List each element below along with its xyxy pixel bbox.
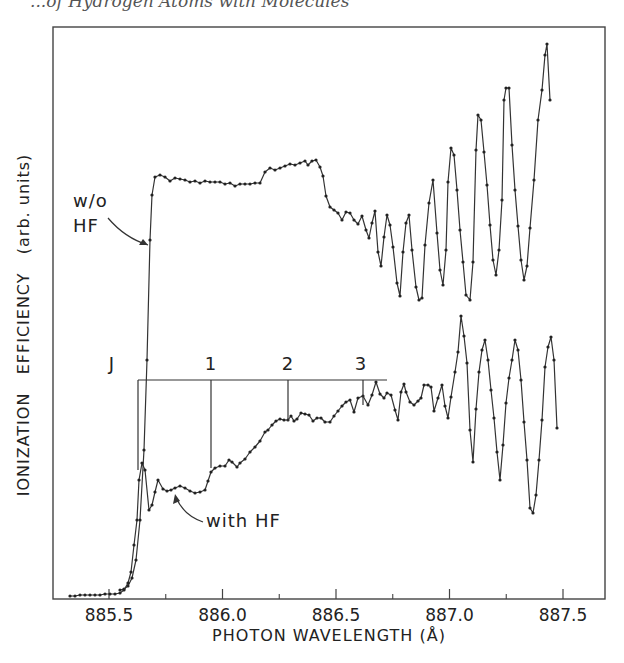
data-point: [407, 213, 410, 216]
annotation-wo-hf-line2: HF: [73, 215, 99, 236]
plot-frame: [53, 27, 605, 599]
data-point: [118, 588, 121, 591]
data-point: [399, 390, 402, 393]
data-point: [311, 419, 314, 422]
data-point: [356, 222, 359, 225]
data-point: [314, 158, 317, 161]
data-point: [483, 338, 486, 341]
data-point: [299, 411, 302, 414]
data-point: [525, 264, 528, 267]
data-point: [531, 511, 534, 514]
data-point: [295, 417, 298, 420]
data-point: [248, 182, 251, 185]
data-point: [453, 370, 456, 373]
data-point: [452, 153, 455, 156]
data-point: [366, 403, 369, 406]
data-point: [408, 400, 411, 403]
x-tick-label: 886.0: [198, 605, 247, 625]
data-point: [485, 183, 488, 186]
data-point: [388, 223, 391, 226]
data-point: [183, 486, 186, 489]
data-point: [540, 88, 543, 91]
data-point: [426, 383, 429, 386]
data-point: [464, 293, 467, 296]
data-point: [395, 281, 398, 284]
data-point: [258, 439, 261, 442]
progression-label-2: 2: [282, 353, 294, 374]
x-axis-tick-labels: 885.5886.0886.5887.0887.5: [85, 605, 588, 625]
data-point: [178, 484, 181, 487]
data-point: [441, 283, 444, 286]
data-point: [370, 221, 373, 224]
data-point: [198, 490, 201, 493]
data-point: [161, 487, 164, 490]
data-point: [93, 593, 96, 596]
data-point: [332, 414, 335, 417]
data-point: [543, 53, 546, 56]
data-point: [545, 42, 548, 45]
data-point: [502, 98, 505, 101]
data-point: [248, 450, 251, 453]
data-point: [206, 479, 209, 482]
arrow-to-with-hf: [176, 497, 203, 522]
data-point: [389, 393, 392, 396]
data-point: [495, 450, 498, 453]
data-point: [401, 250, 404, 253]
data-point: [138, 518, 141, 521]
data-point: [193, 179, 196, 182]
data-point: [270, 423, 273, 426]
data-point: [243, 182, 246, 185]
data-point: [420, 296, 423, 299]
data-point: [223, 182, 226, 185]
data-point: [519, 378, 522, 381]
data-point: [78, 593, 81, 596]
data-point: [404, 221, 407, 224]
data-point: [516, 224, 519, 227]
data-point: [103, 592, 106, 595]
data-point: [446, 180, 449, 183]
data-point: [150, 193, 153, 196]
data-point: [491, 258, 494, 261]
data-point: [431, 178, 434, 181]
data-point: [459, 314, 462, 317]
data-point: [474, 407, 477, 410]
data-point: [336, 211, 339, 214]
data-point: [153, 175, 156, 178]
data-point: [501, 443, 504, 446]
data-point: [340, 218, 343, 221]
data-point: [150, 503, 153, 506]
data-point: [393, 408, 396, 411]
data-point: [412, 403, 415, 406]
data-point: [227, 458, 230, 461]
data-point: [268, 166, 271, 169]
data-point: [289, 414, 292, 417]
data-point: [480, 348, 483, 351]
data-point: [298, 161, 301, 164]
series-with-hf: [68, 314, 558, 597]
data-point: [555, 426, 558, 429]
data-point: [328, 205, 331, 208]
data-point: [455, 188, 458, 191]
data-point: [165, 489, 168, 492]
data-point: [536, 118, 539, 121]
data-point: [108, 592, 111, 595]
data-point: [456, 350, 459, 353]
data-point: [416, 399, 419, 402]
data-point: [213, 180, 216, 183]
data-point: [153, 490, 156, 493]
data-point: [498, 478, 501, 481]
data-point: [132, 543, 135, 546]
data-point: [303, 159, 306, 162]
data-point: [528, 226, 531, 229]
data-point: [336, 409, 339, 412]
data-point: [126, 581, 129, 584]
data-point: [310, 159, 313, 162]
data-point: [510, 358, 513, 361]
data-point: [88, 593, 91, 596]
data-point: [228, 181, 231, 184]
data-point: [209, 470, 212, 473]
data-point: [497, 248, 500, 251]
data-point: [376, 250, 379, 253]
data-point: [213, 466, 216, 469]
data-point: [449, 395, 452, 398]
